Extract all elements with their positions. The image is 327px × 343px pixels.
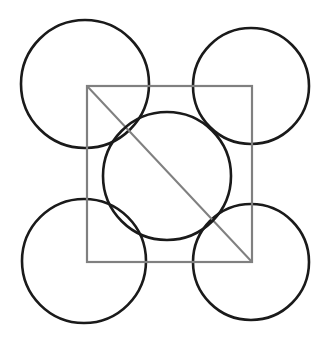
figure-background bbox=[0, 0, 327, 343]
geometric-figure-svg bbox=[0, 0, 327, 343]
figure-canvas bbox=[0, 0, 327, 343]
